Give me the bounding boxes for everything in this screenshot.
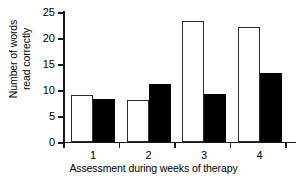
y-tick-mark	[58, 64, 63, 66]
x-axis-title: Assessment during weeks of therapy	[0, 162, 307, 174]
y-tick-label: 5	[49, 111, 55, 122]
y-tick-label: 15	[43, 59, 55, 70]
x-tick-mark	[63, 142, 65, 148]
y-tick-mark	[58, 116, 63, 118]
y-axis-title: Number of words read correctly	[7, 0, 37, 119]
plot-area: 0510152025	[63, 12, 296, 142]
bar-filled-week-4	[260, 73, 282, 142]
y-tick-mark	[58, 90, 63, 92]
x-tick-label-1: 1	[90, 150, 96, 161]
x-tick-mark	[285, 142, 287, 148]
x-tick-mark	[174, 142, 176, 148]
bar-open-week-2	[127, 100, 149, 142]
bar-filled-week-1	[93, 99, 115, 142]
bar-open-week-4	[238, 27, 260, 142]
bar-filled-week-3	[204, 94, 226, 142]
y-tick-label: 25	[43, 7, 55, 18]
x-tick-mark	[230, 142, 232, 148]
bar-open-week-1	[71, 95, 93, 142]
x-tick-label-2: 2	[145, 150, 151, 161]
y-tick-mark	[58, 38, 63, 40]
y-tick-mark	[58, 12, 63, 14]
y-tick-label: 0	[49, 137, 55, 148]
y-tick-label: 10	[43, 85, 55, 96]
x-tick-label-3: 3	[201, 150, 207, 161]
x-tick-label-4: 4	[256, 150, 262, 161]
bar-filled-week-2	[149, 84, 171, 142]
bar-chart-figure: Number of words read correctly 051015202…	[0, 0, 307, 181]
x-tick-mark	[119, 142, 121, 148]
bar-open-week-3	[182, 21, 204, 142]
y-tick-label: 20	[43, 33, 55, 44]
